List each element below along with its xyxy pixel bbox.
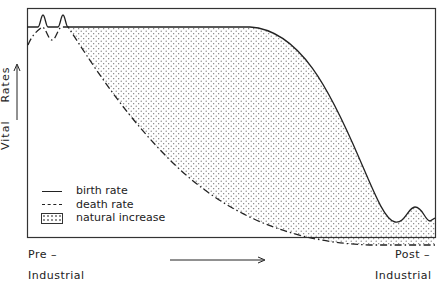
solid-line-icon bbox=[36, 186, 68, 196]
legend-item-death-rate: death rate bbox=[36, 198, 165, 212]
y-label-rates: Rates bbox=[0, 67, 12, 103]
legend-item-natural-increase: natural increase bbox=[36, 211, 165, 225]
legend-label: birth rate bbox=[76, 184, 128, 198]
legend: birth rate death rate natural increase bbox=[36, 184, 165, 225]
chart-canvas bbox=[0, 0, 446, 291]
x-start-label-line1: Pre – bbox=[28, 248, 57, 261]
x-end-label-line1: Post – bbox=[395, 248, 430, 261]
legend-item-birth-rate: birth rate bbox=[36, 184, 165, 198]
x-end-label-line2: Industrial bbox=[375, 269, 432, 282]
y-axis-label: Vital Rates bbox=[0, 67, 12, 150]
x-start-label-line2: Industrial bbox=[28, 269, 85, 282]
legend-label: natural increase bbox=[76, 211, 165, 225]
legend-label: death rate bbox=[76, 198, 134, 212]
dash-dot-line-icon bbox=[36, 199, 68, 209]
dotted-box-icon bbox=[36, 213, 68, 223]
y-label-vital: Vital bbox=[0, 121, 12, 150]
